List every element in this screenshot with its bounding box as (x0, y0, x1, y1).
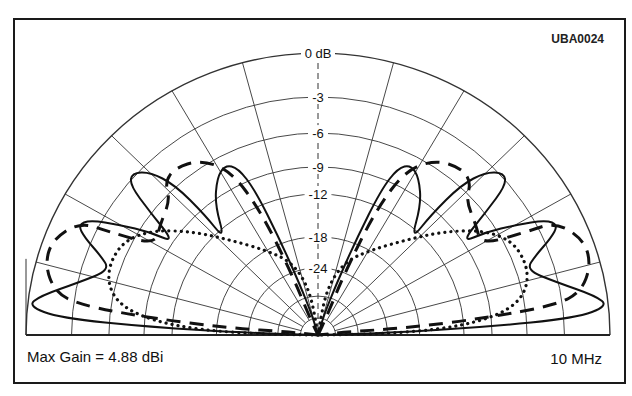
radial-tick-label: -12 (309, 187, 328, 202)
solid-pattern-curve (32, 166, 318, 335)
polar-plot: 0 dB-3-6-9-12-18-24 (0, 0, 632, 396)
radial-tick-label: -18 (309, 230, 328, 245)
figure-id: UBA0024 (551, 32, 604, 46)
solid-pattern-curve (318, 166, 604, 335)
radial-tick-label: 0 dB (305, 46, 332, 61)
radial-tick-label: -9 (312, 160, 324, 175)
grid-spoke (327, 91, 464, 321)
radial-tick-labels: 0 dB-3-6-9-12-18-24 (301, 45, 335, 276)
frequency-label: 10 MHz (550, 350, 602, 367)
radial-tick-label: -6 (312, 126, 324, 141)
max-gain-label: Max Gain = 4.88 dBi (27, 348, 163, 365)
radial-tick-label: -3 (312, 90, 324, 105)
grid-spoke (172, 91, 309, 321)
radial-tick-label: -24 (309, 261, 328, 276)
